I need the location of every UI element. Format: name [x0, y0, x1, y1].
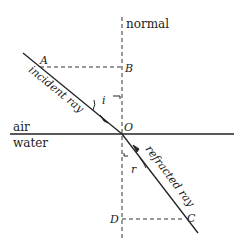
label-point-o: O [124, 121, 133, 134]
label-angle-i: i [102, 94, 106, 107]
angle-i-tick [113, 96, 120, 99]
angle-r-tick [124, 153, 128, 156]
incident-arrow-icon [100, 115, 108, 123]
label-point-c: C [187, 212, 196, 225]
angle-r-arc [140, 158, 146, 168]
refraction-diagram: normal A B i O air water r D C incident … [0, 0, 248, 251]
angle-i-arc [93, 100, 95, 110]
label-point-b: B [124, 62, 133, 75]
label-water: water [13, 136, 48, 150]
label-point-d: D [109, 213, 119, 226]
label-normal: normal [126, 17, 169, 31]
label-air: air [13, 120, 30, 134]
label-incident-ray: incident ray [26, 63, 87, 116]
label-angle-r: r [131, 163, 137, 176]
label-refracted-ray: refracted ray [143, 143, 198, 210]
label-point-a: A [39, 54, 48, 67]
diagram-svg: normal A B i O air water r D C incident … [0, 0, 248, 251]
